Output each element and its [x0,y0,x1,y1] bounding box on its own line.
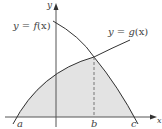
label-g: y = g(x) [107,26,148,37]
label-f: y = f(x) [12,20,51,31]
point-a-label: a [17,118,23,129]
y-axis-label: y [46,0,53,10]
y-axis-arrow-icon [54,3,59,10]
x-axis-arrow-icon [150,115,157,120]
shaded-region [17,57,135,117]
point-b-label: b [91,118,97,129]
area-diagram: x y y = f(x) y = g(x) a b c [0,0,162,129]
x-axis-label: x [157,116,162,125]
point-c-label: c [131,118,137,129]
label-g-eq: = [114,26,129,37]
label-f-eq: = [19,20,34,31]
